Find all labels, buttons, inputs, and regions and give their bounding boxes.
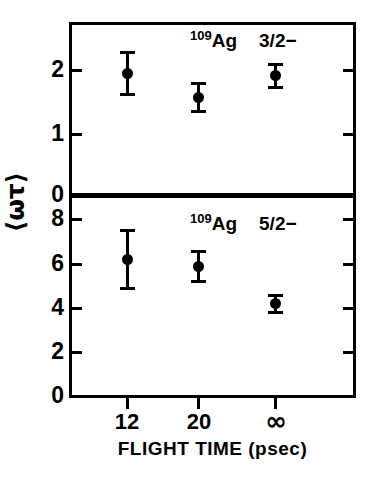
xtick-label-20: 20 [169,411,229,433]
datapoint-bottom-2 [193,261,204,272]
errorbar-top-2-cap-upper [191,82,206,85]
annotation-top-mass: 109 [190,28,212,43]
annotation-bottom-parity: − [285,213,296,234]
annotation-bottom: 109Ag5/2− [190,212,297,233]
ytick-label-top-1: 1 [24,122,64,145]
xtick-12 [126,398,129,409]
x-axis-title: FLIGHT TIME (psec) [69,438,356,460]
ytick-bottom-4-right [343,307,353,310]
annotation-top-spin: 3/2 [259,30,285,51]
ytick-top-1-left [72,133,82,136]
errorbar-bottom-2-cap-upper [191,250,206,253]
ytick-bottom-2-right [343,351,353,354]
annotation-top-element: Ag [212,30,237,51]
ytick-top-2-right [343,69,353,72]
ytick-bottom-8-left [72,218,82,221]
ytick-bottom-4-left [72,307,82,310]
errorbar-bottom-3-cap-upper [268,294,283,297]
ytick-bottom-8-right [343,218,353,221]
figure-canvas: ⟨ωτ⟩ 2 1 0 109Ag3/2− 8 6 4 2 0 109Ag5/ [0,0,372,480]
xtick-20 [197,398,200,409]
datapoint-top-2 [193,92,204,103]
annotation-top-parity: − [285,30,296,51]
errorbar-bottom-1-cap-lower [120,287,135,290]
ytick-bottom-6-left [72,263,82,266]
ytick-label-bottom-6: 6 [24,252,64,275]
errorbar-top-3-cap-lower [268,86,283,89]
ytick-label-top-0: 0 [24,183,64,206]
ytick-bottom-2-left [72,351,82,354]
errorbar-top-3-cap-upper [268,63,283,66]
ytick-label-bottom-8: 8 [24,207,64,230]
ytick-label-bottom-0: 0 [24,384,64,407]
annotation-bottom-element: Ag [212,213,237,234]
ytick-top-1-right [343,133,353,136]
errorbar-top-2-cap-lower [191,110,206,113]
xtick-label-12: 12 [97,411,157,433]
datapoint-top-3 [270,70,281,81]
errorbar-bottom-1-cap-upper [120,229,135,232]
errorbar-bottom-2-cap-lower [191,280,206,283]
datapoint-top-1 [122,68,133,79]
errorbar-bottom-3-cap-lower [268,311,283,314]
ytick-label-bottom-2: 2 [24,340,64,363]
annotation-top: 109Ag3/2− [190,29,297,50]
ytick-top-2-left [72,69,82,72]
datapoint-bottom-3 [270,298,281,309]
ytick-label-top-2: 2 [24,58,64,81]
errorbar-top-1-cap-lower [120,93,135,96]
ytick-bottom-6-right [343,263,353,266]
annotation-bottom-spin: 5/2 [259,213,285,234]
datapoint-bottom-1 [122,254,133,265]
annotation-bottom-mass: 109 [190,211,212,226]
xtick-label-inf: ∞ [246,408,306,434]
ytick-label-bottom-4: 4 [24,296,64,319]
errorbar-top-1-cap-upper [120,51,135,54]
